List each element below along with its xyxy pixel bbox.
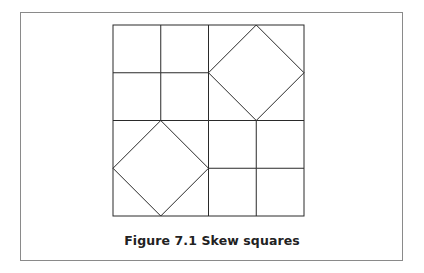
grid-layer <box>113 25 304 216</box>
figure-caption: Figure 7.1 Skew squares <box>0 233 424 248</box>
skew-square <box>209 25 305 121</box>
skew-square <box>113 121 209 217</box>
